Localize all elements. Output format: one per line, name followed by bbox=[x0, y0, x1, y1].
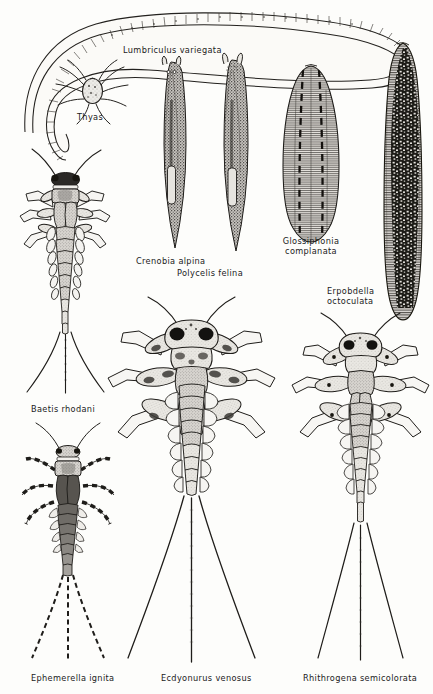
label-ecdyonurus-venosus: Ecdyonurus venosus bbox=[161, 673, 252, 683]
label-crenobia-alpina: Crenobia alpina bbox=[136, 256, 205, 266]
label-erpobdella-octoculata-line1: Erpobdella bbox=[327, 286, 374, 296]
label-baetis-rhodani: Baetis rhodani bbox=[31, 404, 95, 414]
illustration-plate bbox=[0, 0, 433, 694]
label-glossiphonia-complanata-line1: Glossiphonia bbox=[278, 236, 344, 246]
label-thyas: Thyas bbox=[77, 112, 103, 122]
specimen-erpobdella-octoculata bbox=[384, 43, 422, 320]
label-rhithrogena-semicolorata: Rhithrogena semicolorata bbox=[303, 673, 417, 683]
label-glossiphonia-complanata-line2: complanata bbox=[278, 246, 344, 256]
label-lumbriculus-variegata: Lumbriculus variegata bbox=[123, 45, 222, 55]
label-polycelis-felina: Polycelis felina bbox=[177, 268, 243, 278]
label-ephemerella-ignita: Ephemerella ignita bbox=[31, 673, 114, 683]
label-erpobdella-octoculata-line2: octoculata bbox=[327, 296, 373, 306]
